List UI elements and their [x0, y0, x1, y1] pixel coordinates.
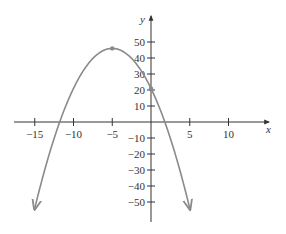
y-tick-label: −10	[128, 132, 146, 144]
vertex-point	[110, 46, 114, 50]
x-tick-label: −5	[106, 128, 118, 140]
y-axis-label: y	[139, 13, 145, 25]
y-tick-label: −50	[128, 196, 146, 208]
y-intercept-point	[149, 86, 153, 90]
y-tick-label: 10	[134, 100, 146, 112]
x-tick-label: −10	[65, 128, 83, 140]
x-axis-label: x	[265, 123, 271, 135]
y-tick-label: −40	[128, 180, 146, 192]
y-tick-label: −20	[128, 148, 146, 160]
y-tick-label: 20	[134, 84, 146, 96]
y-tick-label: 50	[134, 36, 146, 48]
x-tick-label: 5	[187, 128, 193, 140]
x-tick-label: 10	[223, 128, 235, 140]
x-tick-label: −15	[26, 128, 44, 140]
y-tick-label: −30	[128, 164, 146, 176]
parabola-chart: −15−10−55105040302010−10−20−30−40−50 x y	[0, 0, 286, 234]
